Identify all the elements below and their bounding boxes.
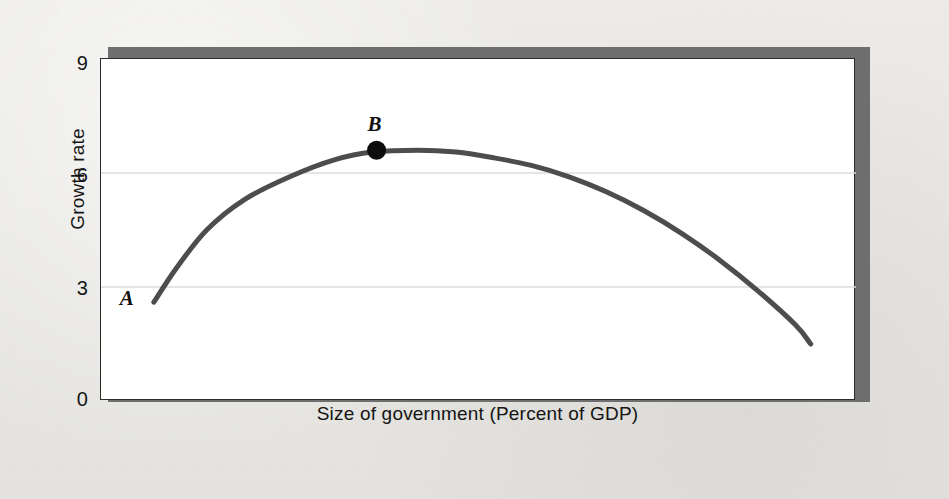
y-tick-label-0: 0: [58, 388, 88, 411]
figure-canvas: A B 9 6 3 0 Growth rate Size of governme…: [0, 0, 949, 499]
plot-area: A B: [100, 58, 855, 400]
y-tick-label-3: 3: [58, 277, 88, 300]
x-axis-title: Size of government (Percent of GDP): [100, 403, 855, 425]
y-axis-title: Growth rate: [67, 89, 89, 269]
point-b-label: B: [368, 112, 382, 137]
plot-graphics: [101, 59, 856, 401]
growth-rate-curve: [154, 150, 811, 344]
y-tick-label-9: 9: [58, 52, 88, 75]
point-b-marker: [367, 141, 386, 160]
point-a-label: A: [120, 286, 134, 311]
